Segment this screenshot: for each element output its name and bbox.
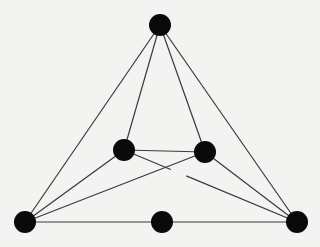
graph-nodes xyxy=(14,14,308,233)
node-bottom-middle xyxy=(151,211,173,233)
edge-top-inner-right xyxy=(160,25,205,152)
edge-inner-left-bottom-left xyxy=(25,150,124,222)
edge-top-bottom-left xyxy=(25,25,160,222)
edge-inner-right-bottom-left xyxy=(25,152,205,222)
graph-diagram xyxy=(0,0,320,247)
edge-inner-left-inner-right xyxy=(124,150,205,152)
node-inner-left xyxy=(113,139,135,161)
graph-edges xyxy=(25,25,297,222)
node-inner-right xyxy=(194,141,216,163)
edge-top-bottom-right xyxy=(160,25,297,222)
edge-inner-right-bottom-right xyxy=(205,152,297,222)
node-top xyxy=(149,14,171,36)
node-bottom-left xyxy=(14,211,36,233)
edge-top-inner-left xyxy=(124,25,160,150)
node-bottom-right xyxy=(286,211,308,233)
